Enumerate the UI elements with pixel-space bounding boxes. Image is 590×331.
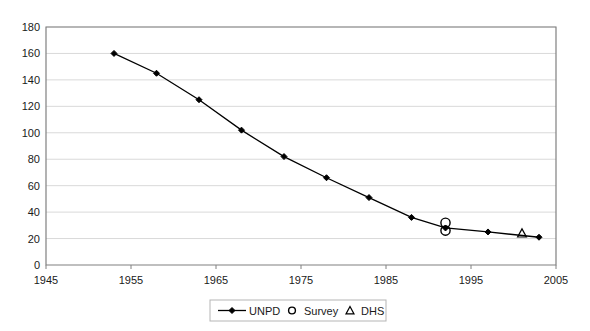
- x-tick-label: 2005: [544, 274, 568, 286]
- y-tick-label: 40: [28, 206, 40, 218]
- legend-label-dhs: DHS: [361, 305, 384, 317]
- y-tick-label: 120: [22, 100, 40, 112]
- y-tick-label: 20: [28, 233, 40, 245]
- chart-container: 020406080100120140160180 194519551965197…: [0, 0, 590, 331]
- x-tick-label: 1965: [204, 274, 228, 286]
- legend-label-survey: Survey: [304, 305, 339, 317]
- y-tick-label: 140: [22, 74, 40, 86]
- legend-label-unpd: UNPD: [249, 305, 280, 317]
- x-tick-label: 1945: [34, 274, 58, 286]
- y-tick-label: 160: [22, 47, 40, 59]
- line-chart: 020406080100120140160180 194519551965197…: [0, 0, 590, 331]
- x-tick-label: 1985: [374, 274, 398, 286]
- y-tick-label: 80: [28, 153, 40, 165]
- y-tick-label: 0: [34, 259, 40, 271]
- x-tick-label: 1955: [119, 274, 143, 286]
- y-tick-label: 100: [22, 127, 40, 139]
- y-tick-label: 180: [22, 21, 40, 33]
- chart-legend: UNPDSurveyDHS: [210, 300, 386, 321]
- y-tick-label: 60: [28, 180, 40, 192]
- x-tick-label: 1995: [459, 274, 483, 286]
- x-tick-label: 1975: [289, 274, 313, 286]
